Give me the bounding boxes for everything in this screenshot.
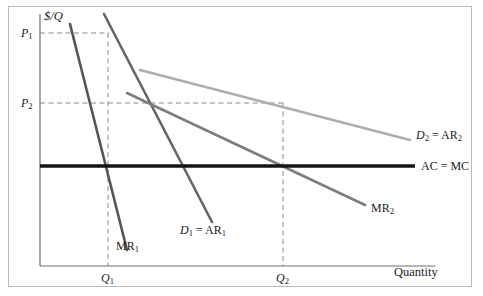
curve-line-d2-ar2 (140, 70, 410, 140)
x-tick-label-q2: Q2 (276, 272, 289, 284)
curve-label-d2-ar2: D2 = AR2 (416, 129, 462, 141)
curve-label-mr1: MR1 (116, 240, 139, 252)
curve-label-d2-sub: 2 (425, 133, 429, 143)
curve-label-mr1-text: MR (116, 239, 135, 253)
curve-label-d2-eq: = AR (429, 128, 458, 142)
curve-label-mr2: MR2 (371, 202, 394, 214)
curve-label-d1-ar1: D1 = AR1 (180, 224, 226, 236)
curve-line-mr2 (127, 93, 365, 205)
y-axis-label: $/Q (44, 10, 63, 23)
y-tick-label-p2: P2 (21, 97, 33, 109)
y-tick-p1-sub: 1 (28, 31, 32, 41)
figure-canvas: $/Q Quantity P1 P2 Q1 Q2 MR1 D1 = AR1 D2… (0, 0, 483, 296)
curve-label-ac-mc: AC = MC (421, 160, 469, 172)
curve-lines (40, 14, 415, 250)
x-tick-q1-sub: 1 (110, 276, 114, 286)
curve-label-mr2-sub: 2 (390, 206, 394, 216)
x-tick-q1-text: Q (101, 271, 110, 285)
curve-label-d2-text: D (416, 128, 425, 142)
x-tick-q2-sub: 2 (285, 276, 289, 286)
curve-line-d1-ar1 (104, 14, 212, 222)
curve-label-d1-sub: 1 (189, 228, 193, 238)
curve-label-ar1-sub: 1 (222, 228, 226, 238)
y-tick-label-p1: P1 (21, 27, 33, 39)
curve-line-mr1 (70, 24, 127, 250)
y-tick-p2-sub: 2 (28, 101, 32, 111)
curve-label-ar2-sub: 2 (458, 133, 462, 143)
x-tick-q2-text: Q (276, 271, 285, 285)
curve-label-d1-eq: = AR (193, 223, 222, 237)
curve-label-mr1-sub: 1 (135, 244, 139, 254)
curve-label-d1-text: D (180, 223, 189, 237)
curve-label-mr2-text: MR (371, 201, 390, 215)
plot-area (0, 0, 483, 296)
x-tick-label-q1: Q1 (101, 272, 114, 284)
x-axis-label: Quantity (394, 266, 438, 279)
